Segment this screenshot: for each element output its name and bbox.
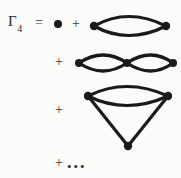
gamma-subscript: 4 <box>17 23 23 34</box>
single-bubble-diagram <box>86 8 176 44</box>
right-lower-arc <box>127 63 173 71</box>
right-upper-arc <box>127 55 173 63</box>
plus-sign-row-1: + <box>72 17 80 31</box>
lower-propagator-arc <box>88 96 168 106</box>
left-lower-arc <box>79 63 127 71</box>
middle-vertex-dot <box>123 59 131 67</box>
cone-triangle-svg <box>80 80 180 156</box>
double-bubble-diagram <box>73 46 179 82</box>
lower-propagator-arc <box>94 26 166 36</box>
double-bubble-svg <box>73 46 179 82</box>
plus-sign-row-2: + <box>55 55 63 69</box>
plus-sign-row-4: + <box>55 156 63 170</box>
filled-dot-icon <box>54 20 62 28</box>
left-vertex-dot <box>90 22 98 30</box>
right-vertex-dot <box>164 92 172 100</box>
gamma-symbol: Γ <box>8 13 17 29</box>
left-vertex-dot <box>84 92 92 100</box>
apex-vertex-dot <box>124 142 132 150</box>
right-vertex-dot <box>162 22 170 30</box>
single-bubble-svg <box>86 8 176 44</box>
upper-propagator-arc <box>94 17 166 27</box>
left-upper-arc <box>79 55 127 63</box>
ellipsis-dots-icon: ••• <box>67 160 87 173</box>
right-vertex-dot <box>169 59 177 67</box>
upper-propagator-arc <box>88 87 168 97</box>
left-vertex-dot <box>75 59 83 67</box>
cone-triangle-diagram <box>80 80 180 156</box>
plus-sign-row-3: + <box>55 103 63 117</box>
feynman-diagram-equation-figure: Γ4 = + + + <box>0 0 181 178</box>
equals-sign: = <box>35 16 43 30</box>
page-title: Γ4 <box>8 14 23 32</box>
